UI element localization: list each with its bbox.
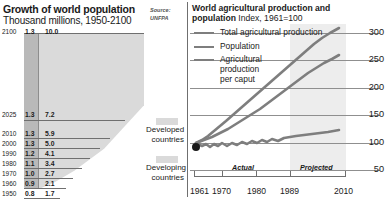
row-developed: 1.3 [25,28,34,35]
row-year: 1950 [2,190,16,197]
row-developing: 2.1 [45,180,54,187]
x-tick-1980 [256,171,257,177]
x-axis-line [194,176,346,177]
row-developed: 0.8 [25,190,34,197]
table-row: 2100 1.3 10.0 [0,28,186,37]
row-year: 2010 [2,130,16,137]
row-rule [24,168,82,169]
row-developing: 10.0 [45,28,58,35]
agricultural-production-chart: World agricultural production and popula… [190,0,387,199]
legend-label-developed-l2: countries [146,135,186,145]
row-year: 1970 [2,170,16,177]
page-title: Growth of world population [3,3,135,15]
legend-label-developing-l2: countries [146,173,186,183]
row-year: 1990 [2,150,16,157]
chart-subtitle: Thousand millions, 1950-2100 [3,15,131,26]
series-production-per-caput [196,130,339,147]
x-label-1989: 1989 [280,186,299,196]
y-tick-150: 150 [369,109,384,119]
y-tick-50: 50 [374,164,384,174]
legend-label-total-production: Total agricultural production [220,27,322,37]
span-label-actual: Actual [232,163,254,172]
y-tick-100: 100 [369,137,384,147]
legend-label-per-caput-l3: per caput [220,74,255,84]
row-developed: 1.3 [25,140,34,147]
source-note: Source: UNFPA [150,6,170,23]
panel-divider [187,2,188,197]
row-developing: 5.0 [45,140,54,147]
origin-marker [192,143,200,151]
row-developing: 1.7 [45,190,54,197]
y-tick-250: 250 [369,54,384,64]
legend-swatch-developed [156,118,178,125]
row-rule [24,178,73,179]
row-year: 2025 [2,111,16,118]
legend-label-per-caput-l1: Agricultural [220,54,262,64]
row-year: 2100 [2,28,16,35]
row-rule [24,120,125,121]
chart-title-line1: World agricultural production and [192,3,330,13]
legend-item-total-production: Total agricultural production [192,27,322,37]
row-developing: 3.4 [45,160,54,167]
row-developed: 1.3 [25,111,34,118]
x-tick-2010 [345,171,346,177]
chart-title: World agricultural production and popula… [192,3,352,23]
row-developed: 1.0 [25,170,34,177]
chart-title-line2: population [192,13,236,23]
x-label-1980: 1980 [247,186,266,196]
x-label-1961: 1961 [190,186,209,196]
infographic-page: Growth of world population Thousand mill… [0,0,387,199]
row-developed: 0.9 [25,180,34,187]
row-developed: 1.2 [25,150,34,157]
legend-label-per-caput: Agricultural production per caput [220,54,262,84]
chart-legend: Total agricultural production Population… [192,27,322,88]
row-rule [24,148,100,149]
span-label-projected: Projected [300,163,333,172]
row-year: 1980 [2,160,16,167]
legend-developing: Developing countries [146,156,186,182]
legend-developed: Developed countries [146,118,186,144]
x-tick-1989 [290,171,291,177]
legend-line-population [194,46,214,48]
row-year: 1960 [2,180,16,187]
y-tick-300: 300 [369,27,384,37]
x-label-2010: 2010 [334,186,353,196]
legend-label-population: Population [220,41,260,51]
population-growth-chart: Growth of world population Thousand mill… [0,0,186,199]
row-rule [24,138,110,139]
row-developing: 4.1 [45,150,54,157]
legend-line-total-production [194,32,214,34]
legend-label-developing-l1: Developing [146,163,186,173]
source-label: Source: [150,6,170,14]
row-rule [24,188,66,189]
legend-label-per-caput-l2: production [220,64,259,74]
x-label-1970: 1970 [212,186,231,196]
row-developing: 5.9 [45,130,54,137]
legend-line-per-caput [194,59,214,61]
x-tick-1961 [194,171,195,177]
row-developed: 1.3 [25,130,34,137]
y-tick-200: 200 [369,82,384,92]
row-rule [24,198,60,199]
legend-item-per-caput: Agricultural production per caput [192,54,322,84]
chart-index-note: Index, 1961=100 [238,13,302,23]
row-year: 2000 [2,140,16,147]
row-developing: 2.7 [45,170,54,177]
x-tick-1970 [222,171,223,177]
y-axis-labels: 300 250 200 150 100 50 [348,24,386,174]
source-value: UNFPA [150,14,170,22]
legend-item-population: Population [192,41,322,51]
row-rule [24,158,90,159]
legend-label-developed-l1: Developed [146,125,186,135]
row-developed: 1.1 [25,160,34,167]
row-developing: 7.2 [45,111,54,118]
legend-swatch-developing [156,156,178,163]
